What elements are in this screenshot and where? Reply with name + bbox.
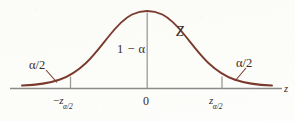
alpha-over-two-left-label: α/2 — [29, 59, 45, 72]
critical-value-right-label: zα/2 — [209, 95, 223, 109]
critical-value-left-label: −zα/2 — [53, 95, 73, 109]
alpha-over-two-right-label: α/2 — [236, 57, 252, 70]
z-axis-label: z — [284, 84, 288, 95]
curve-variable-label: Z — [176, 25, 184, 39]
figure-canvas: α/2 α/2 1 − α Z z 0 −zα/2 zα/2 — [0, 0, 295, 121]
critical-value-right-subscript: α/2 — [213, 102, 223, 111]
alpha-left-leader-line — [46, 70, 57, 83]
critical-value-left-subscript: α/2 — [63, 102, 73, 111]
origin-tick-label: 0 — [143, 95, 149, 107]
confidence-level-label: 1 − α — [117, 43, 146, 56]
